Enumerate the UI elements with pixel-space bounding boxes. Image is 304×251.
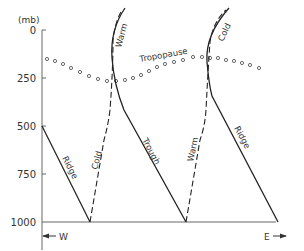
y-axis-unit: (mb) — [18, 15, 40, 25]
arrow-left-icon — [42, 234, 49, 239]
east-indicator: E — [264, 232, 287, 242]
cold-label-top-right: Cold — [216, 21, 233, 42]
y-tick-250: 250 — [17, 73, 36, 84]
east-label: E — [264, 232, 270, 242]
warm-dashed-line-right — [186, 10, 226, 222]
warm-label-right: Warm — [185, 136, 200, 162]
west-label: W — [59, 232, 68, 242]
west-indicator: W — [42, 232, 68, 242]
diagram-canvas: (mb) 0 250 500 750 1000 Tropopause Ridg — [0, 0, 304, 251]
trough-label: Trough — [140, 135, 163, 166]
y-axis — [42, 30, 46, 250]
tropopause-label: Tropopause — [138, 46, 189, 64]
y-tick-1000: 1000 — [11, 217, 36, 228]
ridge-line-left — [42, 126, 90, 222]
ridge-label-right: Ridge — [232, 124, 252, 150]
y-tick-500: 500 — [17, 121, 36, 132]
cold-label-left: Cold — [89, 150, 104, 171]
arrow-right-icon — [280, 234, 287, 239]
y-tick-0: 0 — [30, 25, 36, 36]
y-tick-750: 750 — [17, 169, 36, 180]
